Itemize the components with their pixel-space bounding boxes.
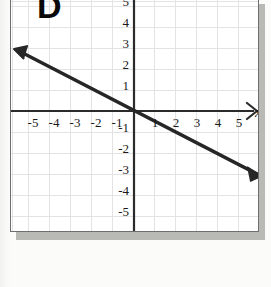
x-tick-label: -4 (44, 116, 64, 129)
plotted-line (17, 50, 259, 175)
graph-panel: D x -5 -4 -3 -2 -1 1 2 3 4 5 5 4 3 2 1 -… (10, 0, 259, 232)
x-tick-label: -2 (86, 116, 106, 129)
y-tick-label: -2 (105, 142, 129, 155)
plotted-line-arrowhead-left (14, 46, 28, 59)
y-tick-label: 5 (105, 0, 129, 8)
x-tick-label: 5 (229, 116, 249, 129)
x-tick-label: 3 (187, 116, 207, 129)
y-tick-label: -1 (105, 121, 129, 134)
y-tick-label: -5 (105, 205, 129, 218)
y-tick-label: 2 (105, 58, 129, 71)
x-tick-label: 2 (166, 116, 186, 129)
y-tick-label: 3 (105, 37, 129, 50)
plotted-line-arrowhead-right (247, 167, 259, 181)
y-tick-label: -3 (105, 163, 129, 176)
panel-letter-label: D (37, 0, 62, 23)
x-tick-label: -5 (23, 116, 43, 129)
x-tick-label: 1 (145, 116, 165, 129)
x-axis-label: x (255, 106, 259, 120)
y-tick-label: 1 (105, 79, 129, 92)
y-tick-label: -4 (105, 184, 129, 197)
y-tick-label: 4 (105, 16, 129, 29)
x-tick-label: -3 (65, 116, 85, 129)
x-tick-label: 4 (208, 116, 228, 129)
